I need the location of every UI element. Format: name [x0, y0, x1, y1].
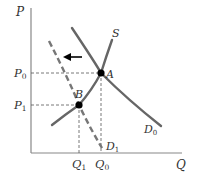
point-a-label: A	[105, 68, 114, 81]
supply-label: S	[112, 27, 120, 40]
p1-label: P1	[13, 98, 27, 113]
q0-label: Q0	[95, 157, 109, 172]
p0-label: P0	[13, 66, 27, 81]
x-axis-label: Q	[176, 158, 186, 172]
shift-arrow-icon	[63, 53, 71, 61]
q1-label: Q1	[72, 157, 86, 172]
demand-curve-d0	[72, 28, 161, 126]
supply-demand-diagram: P Q P0 P1 Q1 Q0 S D0 D1 A B	[0, 0, 199, 187]
point-a	[97, 69, 104, 76]
d1-label: D1	[105, 140, 119, 154]
point-b-label: B	[74, 88, 83, 101]
point-b	[75, 101, 82, 108]
y-axis-label: P	[15, 5, 25, 19]
d0-label: D0	[143, 123, 157, 137]
